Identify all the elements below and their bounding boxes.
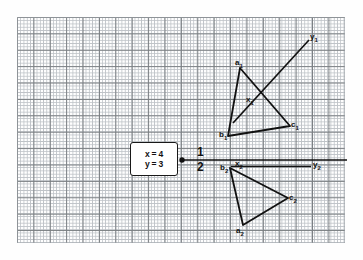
label-b2: b2: [220, 164, 228, 174]
diagram-canvas: x = 4 y = 3 1 2 a1 b1 c1 x1 y1 b2 a2 c2 …: [0, 0, 363, 260]
label-y2: y2: [313, 161, 321, 171]
label-c2: c2: [289, 194, 297, 204]
value-box: x = 4 y = 3: [130, 142, 178, 176]
value-box-x-equation: x = 4: [145, 150, 163, 159]
vector-overlay: [0, 0, 363, 260]
ray-x1-y1: [233, 40, 309, 123]
label-x2: x2: [235, 160, 243, 170]
label-x1: x1: [246, 96, 254, 106]
label-a2: a2: [236, 227, 244, 237]
value-box-y-equation: y = 3: [145, 160, 163, 169]
label-y1: y1: [310, 33, 318, 43]
triangle-upper: [228, 68, 290, 136]
triangle-lower: [230, 168, 288, 225]
branch-number-lower: 2: [197, 161, 204, 173]
branch-number-upper: 1: [197, 146, 204, 158]
source-node-dot: [179, 157, 184, 162]
label-a1: a1: [235, 59, 243, 69]
label-c1: c1: [291, 121, 299, 131]
label-b1: b1: [219, 131, 227, 141]
